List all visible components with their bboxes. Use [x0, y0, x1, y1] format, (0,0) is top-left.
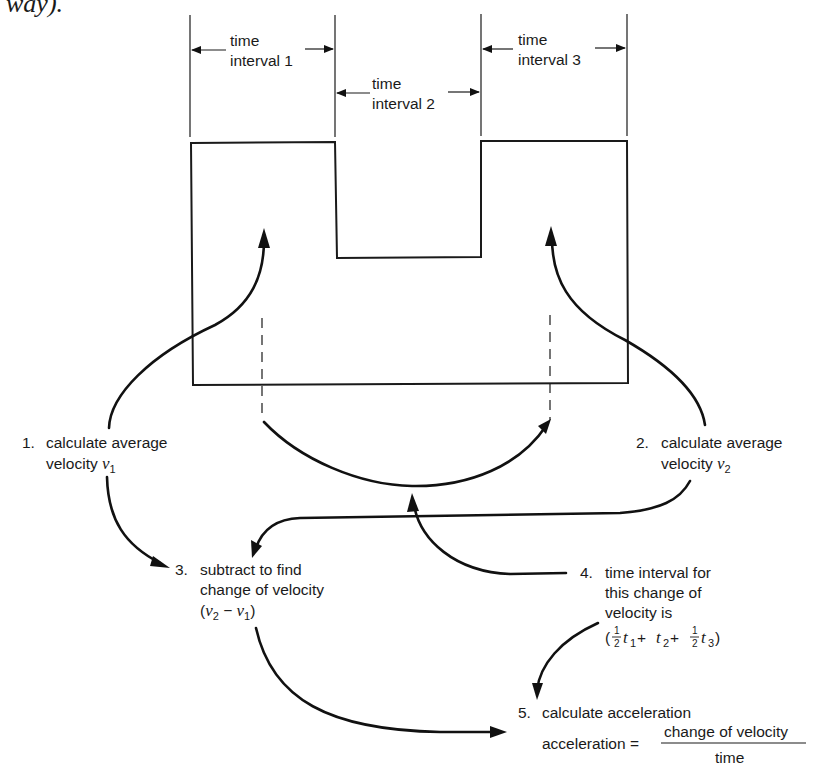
- interval-3-dimension: time interval 3: [482, 31, 626, 68]
- arrow-step4-to-arc: [407, 493, 566, 574]
- step4-formula: ( 1 2 t 1 + t 2 + 1 2 t 3 ): [605, 625, 720, 649]
- arrow-step4-to-step5: [532, 623, 598, 700]
- svg-text:+: +: [637, 629, 646, 646]
- arrow-step2-to-step3: [251, 481, 690, 558]
- step4-label: 4. time interval for this change of velo…: [580, 564, 720, 649]
- arrow-midpoint-arc: [264, 419, 551, 486]
- step5-label: 5. calculate acceleration acceleration =…: [518, 704, 806, 766]
- step1-line1: calculate average: [46, 434, 168, 451]
- step5-numerator: change of velocity: [664, 723, 788, 740]
- step3-label: 3. subtract to find change of velocity (…: [175, 561, 324, 622]
- step4-line1: time interval for: [605, 564, 711, 581]
- step3-formula: (v2 − v1): [200, 601, 255, 622]
- arrow-step3-to-step5: [256, 628, 507, 738]
- interval-1-label-line1: time: [230, 32, 259, 49]
- interval-1-label-line2: interval 1: [230, 52, 293, 69]
- ticker-tape-shape: [191, 141, 628, 385]
- interval-3-label-line2: interval 3: [518, 51, 581, 68]
- svg-text:2: 2: [692, 638, 698, 649]
- acceleration-diagram: way). time interval 1 time interval 2 ti…: [0, 0, 821, 779]
- step4-line3: velocity is: [605, 604, 672, 621]
- interval-1-dimension: time interval 1: [191, 32, 334, 69]
- step4-line2: this change of: [605, 584, 702, 601]
- svg-text:t: t: [701, 628, 707, 647]
- step1-line2: velocity v1: [46, 454, 116, 475]
- arrow-step2-to-interval3: [545, 226, 705, 425]
- svg-text:3: 3: [708, 637, 714, 649]
- svg-text:t: t: [656, 628, 662, 647]
- step1-number: 1.: [22, 434, 35, 451]
- interval-3-label-line1: time: [518, 31, 547, 48]
- step5-lhs: acceleration =: [542, 735, 639, 752]
- arrow-step1-to-step3: [107, 477, 170, 568]
- svg-text:2: 2: [614, 638, 620, 649]
- step3-number: 3.: [175, 561, 188, 578]
- svg-text:2: 2: [663, 637, 669, 649]
- svg-text:1: 1: [692, 625, 698, 636]
- svg-text:(: (: [605, 629, 611, 646]
- svg-text:1: 1: [614, 625, 620, 636]
- step4-number: 4.: [580, 564, 593, 581]
- interval-2-dimension: time interval 2: [336, 75, 480, 112]
- step1-label: 1. calculate average velocity v1: [22, 434, 168, 475]
- header-fragment: way).: [6, 0, 63, 18]
- step3-line2: change of velocity: [200, 581, 324, 598]
- svg-text:+: +: [670, 629, 679, 646]
- step2-line1: calculate average: [661, 434, 783, 451]
- step5-line1: calculate acceleration: [542, 704, 691, 721]
- svg-text:t: t: [623, 628, 629, 647]
- svg-text:): ): [715, 629, 720, 646]
- svg-text:1: 1: [630, 637, 636, 649]
- step2-line2: velocity v2: [661, 454, 731, 475]
- step2-label: 2. calculate average velocity v2: [636, 434, 783, 475]
- step5-denominator: time: [715, 749, 744, 766]
- step3-line1: subtract to find: [200, 561, 302, 578]
- step5-number: 5.: [518, 704, 531, 721]
- interval-2-label-line2: interval 2: [372, 95, 435, 112]
- interval-2-label-line1: time: [372, 75, 401, 92]
- arrow-step1-to-interval1: [109, 228, 270, 428]
- step2-number: 2.: [636, 434, 649, 451]
